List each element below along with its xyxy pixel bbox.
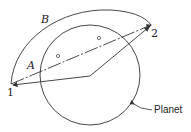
marker-circle [97, 36, 100, 39]
path-a-label: A [27, 60, 35, 71]
point-1-label: 1 [7, 87, 14, 98]
point-2-label: 2 [151, 28, 158, 39]
path-a-chord [11, 25, 151, 84]
radius-vector-1 [13, 76, 90, 85]
orbit-transfer-diagram: B A 1 2 Planet [0, 0, 191, 132]
planet-label: Planet [154, 105, 182, 115]
marker-circle [56, 54, 59, 57]
path-b-arc [11, 10, 151, 84]
planet-circle [40, 25, 140, 125]
path-b-label: B [41, 14, 49, 25]
planet-leader-line [134, 104, 152, 110]
